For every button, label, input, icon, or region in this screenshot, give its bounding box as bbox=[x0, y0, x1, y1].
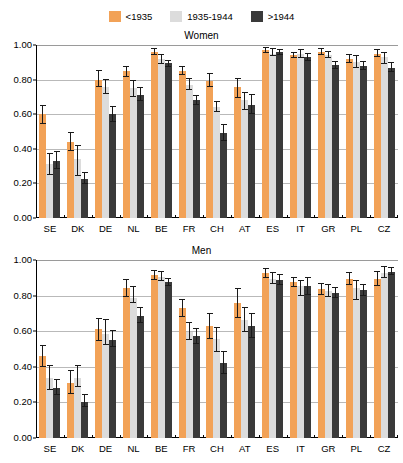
x-tick-mark bbox=[314, 215, 342, 218]
error-bar-cap-upper bbox=[68, 132, 74, 133]
bar bbox=[137, 95, 144, 218]
error-bar bbox=[49, 365, 50, 390]
error-bar-cap-lower bbox=[381, 277, 387, 278]
error-bar-cap-lower bbox=[158, 63, 164, 64]
bar-slot bbox=[151, 260, 158, 438]
x-axis-labels-men: SEDKDENLBEFRCHATESITGRPLCZ bbox=[36, 442, 398, 458]
x-axis-tick-label: ES bbox=[259, 442, 287, 458]
bar bbox=[158, 277, 165, 438]
chart-legend: <19351935-1944>1944 bbox=[0, 6, 403, 26]
error-bar-cap-lower bbox=[374, 56, 380, 57]
error-bar-cap-lower bbox=[353, 67, 359, 68]
error-bar-cap-upper bbox=[103, 319, 109, 320]
error-bar-cap-upper bbox=[360, 61, 366, 62]
y-axis-tick-label: 0.20 bbox=[14, 397, 33, 407]
bar-slot bbox=[234, 260, 241, 438]
error-bar bbox=[70, 132, 71, 151]
bar bbox=[165, 282, 172, 438]
bar bbox=[346, 279, 353, 438]
error-bar-cap-upper bbox=[353, 55, 359, 56]
error-bar-cap-lower bbox=[54, 168, 60, 169]
error-bar-cap-lower bbox=[270, 283, 276, 284]
error-bar-cap-lower bbox=[47, 389, 53, 390]
error-bar-cap-lower bbox=[137, 100, 143, 101]
bar bbox=[346, 59, 353, 218]
bar bbox=[137, 316, 144, 438]
bar-slot bbox=[67, 260, 74, 438]
error-bar bbox=[328, 51, 329, 58]
bar bbox=[325, 291, 332, 438]
bar bbox=[206, 81, 213, 218]
error-bar bbox=[293, 277, 294, 287]
bar-slot bbox=[193, 260, 200, 438]
error-bar-cap-lower bbox=[193, 104, 199, 105]
error-bar-cap-upper bbox=[75, 365, 81, 366]
y-axis-tick-label: 1.00 bbox=[14, 40, 33, 50]
bar bbox=[123, 71, 130, 218]
error-bar bbox=[307, 53, 308, 62]
error-bar-cap-upper bbox=[249, 94, 255, 95]
bar-slot bbox=[262, 45, 269, 218]
error-bar-cap-upper bbox=[291, 277, 297, 278]
error-bar bbox=[84, 394, 85, 406]
error-bar-cap-lower bbox=[360, 295, 366, 296]
bar bbox=[269, 54, 276, 218]
bar bbox=[53, 388, 60, 438]
bar bbox=[193, 100, 200, 218]
y-axis-tick-label: 1.00 bbox=[14, 255, 33, 265]
error-bar-cap-upper bbox=[332, 287, 338, 288]
x-tick-mark bbox=[287, 435, 315, 438]
bar-slot bbox=[165, 260, 172, 438]
error-bar bbox=[279, 49, 280, 54]
error-bar bbox=[98, 318, 99, 341]
error-bar-cap-upper bbox=[305, 53, 311, 54]
error-bar bbox=[272, 48, 273, 56]
axis-area-men: 0.000.200.400.600.801.00 bbox=[36, 260, 398, 438]
error-bar-cap-lower bbox=[263, 52, 269, 53]
error-bar-cap-upper bbox=[158, 54, 164, 55]
error-bar bbox=[321, 48, 322, 55]
error-bar-cap-upper bbox=[68, 370, 74, 371]
bar-slot bbox=[290, 260, 297, 438]
bar-group bbox=[231, 260, 259, 438]
bar bbox=[262, 273, 269, 438]
bar bbox=[81, 179, 88, 218]
bar-slot bbox=[67, 45, 74, 218]
bar-group bbox=[370, 260, 398, 438]
error-bar-cap-upper bbox=[381, 266, 387, 267]
x-axis-tick-label: SE bbox=[36, 442, 64, 458]
error-bar-cap-lower bbox=[305, 294, 311, 295]
bar bbox=[388, 272, 395, 438]
error-bar bbox=[209, 313, 210, 340]
bar-slot bbox=[269, 45, 276, 218]
error-bar bbox=[384, 266, 385, 278]
bars-layer bbox=[36, 260, 398, 438]
error-bar bbox=[391, 62, 392, 72]
error-bar-cap-lower bbox=[151, 54, 157, 55]
bar bbox=[381, 273, 388, 438]
error-bar-cap-upper bbox=[214, 327, 220, 328]
bar-slot bbox=[39, 45, 46, 218]
bar-slot bbox=[74, 45, 81, 218]
error-bar-cap-lower bbox=[130, 96, 136, 97]
x-tick-mark bbox=[342, 435, 370, 438]
legend-label: >1944 bbox=[268, 11, 295, 22]
bar bbox=[193, 336, 200, 438]
error-bar-cap-upper bbox=[137, 87, 143, 88]
bar bbox=[102, 87, 109, 218]
bar bbox=[179, 308, 186, 438]
y-axis-tick-label: 0.00 bbox=[14, 213, 33, 223]
error-bar-cap-upper bbox=[235, 78, 241, 79]
bar-slot bbox=[74, 260, 81, 438]
error-bar-cap-lower bbox=[325, 296, 331, 297]
error-bar bbox=[112, 106, 113, 122]
x-tick-mark bbox=[231, 435, 259, 438]
error-bar-cap-lower bbox=[381, 63, 387, 64]
error-bar-cap-upper bbox=[96, 318, 102, 319]
bar-slot bbox=[123, 260, 130, 438]
error-bar-cap-lower bbox=[158, 280, 164, 281]
x-tick-mark bbox=[342, 215, 370, 218]
bar-slot bbox=[381, 260, 388, 438]
bar bbox=[269, 279, 276, 438]
error-bar-cap-lower bbox=[40, 123, 46, 124]
